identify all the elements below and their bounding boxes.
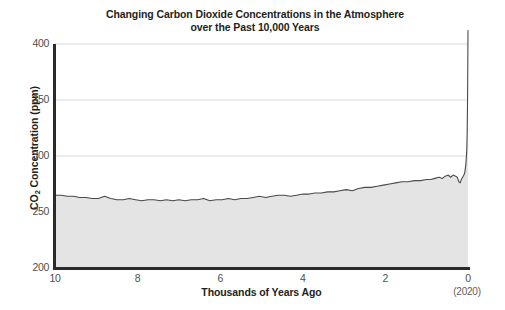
x-tick-label-2: 2 — [365, 272, 405, 284]
co2-area-fill — [55, 31, 468, 268]
x-tick-label-4: 4 — [283, 272, 323, 284]
chart-figure: Changing Carbon Dioxide Concentrations i… — [0, 0, 505, 310]
x-tick-label-8: 8 — [118, 272, 158, 284]
co2-line — [55, 31, 468, 201]
chart-svg — [55, 26, 468, 268]
y-axis-spine — [53, 44, 56, 270]
x-tick-label-6: 6 — [200, 272, 240, 284]
plot-area — [55, 44, 468, 268]
x-tick-label-10: 10 — [35, 272, 75, 284]
y-tick-label-300: 300 — [0, 149, 49, 161]
x-tick-label-0: 0 — [448, 272, 488, 284]
x-axis-spine — [53, 267, 470, 270]
y-axis-title-subscript: 2 — [33, 190, 42, 194]
x-axis-title: Thousands of Years Ago — [55, 286, 468, 298]
x-axis-note: (2020) — [432, 286, 502, 297]
y-axis-title: CO2 Concentration (ppm) — [28, 48, 40, 248]
y-tick-label-400: 400 — [0, 37, 49, 49]
y-tick-label-250: 250 — [0, 205, 49, 217]
y-tick-label-350: 350 — [0, 93, 49, 105]
